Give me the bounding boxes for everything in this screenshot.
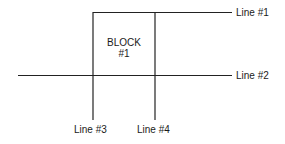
line-4-label: Line #4 [137, 124, 170, 135]
block-number: #1 [99, 48, 149, 59]
line-2-label: Line #2 [236, 70, 269, 81]
block-1-label: BLOCK #1 [99, 37, 149, 59]
line-3-label: Line #3 [74, 124, 107, 135]
line-1-label: Line #1 [236, 7, 269, 18]
block-title: BLOCK [99, 37, 149, 48]
